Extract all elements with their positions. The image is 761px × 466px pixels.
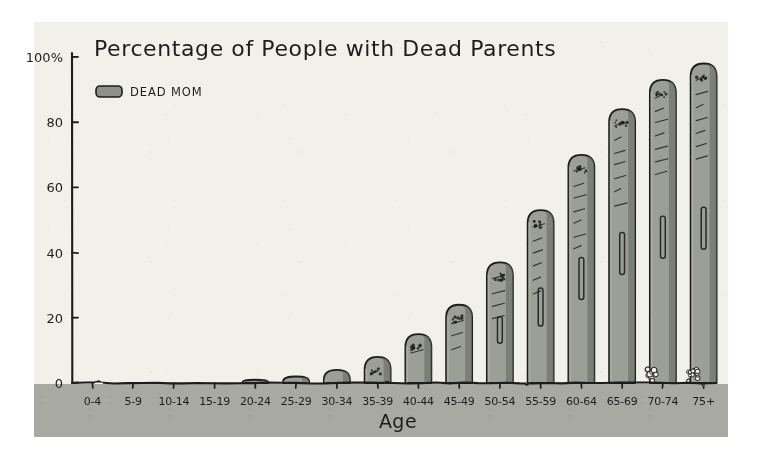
y-tick-0 [72, 382, 78, 383]
y-tick-label-20: 20 [46, 311, 63, 326]
tombstone-bar [568, 155, 594, 383]
y-tick-label-60: 60 [46, 180, 63, 195]
tombstone-bar [609, 109, 635, 383]
x-axis-label: Age [379, 410, 417, 432]
bars-group [242, 64, 716, 384]
x-tick-label-60-64: 60-64 [566, 395, 597, 408]
y-tick-label-80: 80 [46, 115, 63, 130]
tombstone-bar [365, 357, 391, 383]
tombstone-bar [687, 64, 717, 383]
tombstone-bar [487, 262, 513, 383]
y-tick-label-0: 0 [55, 376, 63, 391]
x-axis-line [72, 382, 716, 383]
x-tick-label-5-9: 5-9 [124, 395, 142, 408]
x-tick-label-30-34: 30-34 [321, 395, 352, 408]
tombstone-bar [324, 370, 350, 383]
x-tick-label-75+: 75+ [692, 395, 715, 408]
x-tick-label-35-39: 35-39 [362, 395, 393, 408]
x-tick-label-20-24: 20-24 [240, 395, 271, 408]
x-tick-label-0-4: 0-4 [84, 395, 102, 408]
tombstone-bar [645, 80, 676, 383]
chart-canvas: Percentage of People with Dead Parents10… [0, 0, 761, 466]
tombstone-bar [528, 210, 554, 383]
y-tick-label-100: 100% [26, 50, 63, 65]
x-tick-label-10-14: 10-14 [158, 395, 189, 408]
x-tick-label-45-49: 45-49 [444, 395, 475, 408]
legend-entry-label-dead-mom: DEAD MOM [130, 85, 203, 99]
x-tick-label-55-59: 55-59 [525, 395, 556, 408]
chart-ink-layer: Percentage of People with Dead Parents10… [0, 0, 761, 466]
y-tick-label-40: 40 [46, 246, 63, 261]
x-tick-label-50-54: 50-54 [484, 395, 515, 408]
x-tick-label-15-19: 15-19 [199, 395, 230, 408]
chart-title: Percentage of People with Dead Parents [94, 36, 556, 61]
tombstone-bar [405, 334, 431, 383]
x-tick-label-65-69: 65-69 [607, 395, 638, 408]
x-tick-label-40-44: 40-44 [403, 395, 434, 408]
x-tick-label-25-29: 25-29 [281, 395, 312, 408]
legend-swatch-dead-mom [96, 86, 122, 97]
tombstone-bar [446, 305, 472, 383]
legend: DEAD MOM [96, 85, 203, 99]
x-tick-label-70-74: 70-74 [647, 395, 678, 408]
